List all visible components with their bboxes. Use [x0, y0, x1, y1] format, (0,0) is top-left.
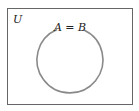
- venn-diagram: U A = B: [0, 0, 139, 111]
- set-label: A = B: [53, 21, 86, 34]
- universe-label: U: [13, 13, 23, 26]
